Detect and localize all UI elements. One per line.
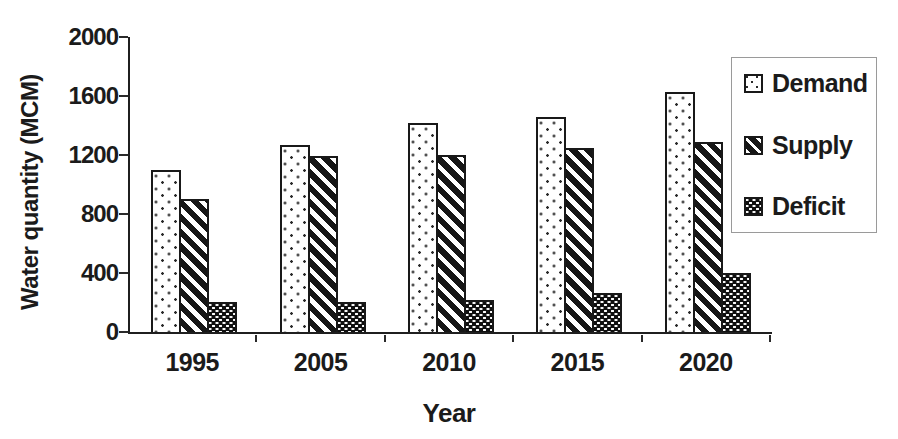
- bar-demand-1995: [151, 170, 181, 332]
- bar-deficit-2010: [464, 300, 494, 332]
- y-tick-label-400: 400: [8, 258, 118, 288]
- bar-supply-2015: [564, 148, 594, 332]
- bar-supply-2010: [436, 155, 466, 332]
- legend-label: Demand: [772, 71, 868, 96]
- legend: DemandSupplyDeficit: [731, 57, 877, 233]
- legend-item-supply: Supply: [744, 133, 872, 158]
- bar-deficit-2005: [336, 302, 366, 332]
- checker-swatch-icon: [744, 197, 763, 216]
- x-axis-title: Year: [128, 398, 770, 429]
- x-tick-mark: [512, 335, 514, 342]
- y-tick-mark: [119, 331, 128, 333]
- y-tick-mark: [119, 213, 128, 215]
- y-tick-label-2000: 2000: [8, 22, 118, 52]
- bar-group-1995: [130, 37, 258, 332]
- bar-group-2015: [515, 37, 643, 332]
- diagonal-stripes-swatch-icon: [744, 136, 763, 155]
- x-tick-label-1995: 1995: [128, 348, 256, 377]
- bar-deficit-2020: [721, 273, 751, 332]
- x-tick-label-2020: 2020: [642, 348, 770, 377]
- y-tick-mark: [119, 272, 128, 274]
- bar-supply-1995: [179, 199, 209, 332]
- legend-label: Supply: [772, 133, 852, 158]
- x-tick-mark: [384, 335, 386, 342]
- x-axis-tick-labels: 19952005201020152020: [128, 348, 770, 377]
- y-tick-label-1600: 1600: [8, 81, 118, 111]
- chart-figure: Water quantity (MCM) 0400800120016002000…: [0, 0, 898, 439]
- x-tick-mark: [641, 335, 643, 342]
- y-tick-mark: [119, 36, 128, 38]
- bar-demand-2020: [665, 92, 695, 332]
- x-tick-label-2010: 2010: [385, 348, 513, 377]
- bar-demand-2010: [408, 123, 438, 332]
- legend-item-demand: Demand: [744, 71, 872, 96]
- bar-deficit-1995: [207, 302, 237, 332]
- bar-supply-2020: [693, 142, 723, 332]
- bar-group-2010: [387, 37, 515, 332]
- bar-demand-2015: [536, 117, 566, 332]
- bar-supply-2005: [308, 156, 338, 332]
- y-tick-mark: [119, 95, 128, 97]
- bar-deficit-2015: [592, 293, 622, 332]
- dots-swatch-icon: [744, 74, 763, 93]
- x-tick-label-2005: 2005: [256, 348, 384, 377]
- y-tick-label-800: 800: [8, 199, 118, 229]
- bar-group-2005: [258, 37, 386, 332]
- y-tick-label-1200: 1200: [8, 140, 118, 170]
- y-tick-mark: [119, 154, 128, 156]
- x-tick-label-2015: 2015: [513, 348, 641, 377]
- x-tick-mark: [769, 335, 771, 342]
- bar-groups: [130, 37, 772, 332]
- y-tick-label-0: 0: [8, 317, 118, 347]
- x-tick-mark: [255, 335, 257, 342]
- legend-label: Deficit: [772, 194, 845, 219]
- plot-area: [128, 37, 772, 334]
- bar-demand-2005: [280, 145, 310, 332]
- legend-item-deficit: Deficit: [744, 194, 872, 219]
